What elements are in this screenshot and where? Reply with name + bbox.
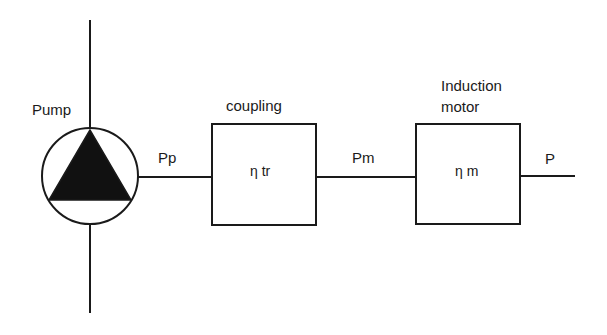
signal-p-label: P [545,151,555,166]
motor-efficiency: η m [455,164,478,178]
pump-label: Pump [32,102,71,117]
signal-pp-label: Pp [158,150,176,165]
motor-title-line2: motor [441,99,479,114]
coupling-efficiency: η tr [250,164,270,178]
pump-icon [42,128,138,224]
coupling-title: coupling [226,98,282,113]
motor-title-line1: Induction [441,78,502,93]
diagram-canvas [0,0,607,335]
signal-pm-label: Pm [352,150,375,165]
